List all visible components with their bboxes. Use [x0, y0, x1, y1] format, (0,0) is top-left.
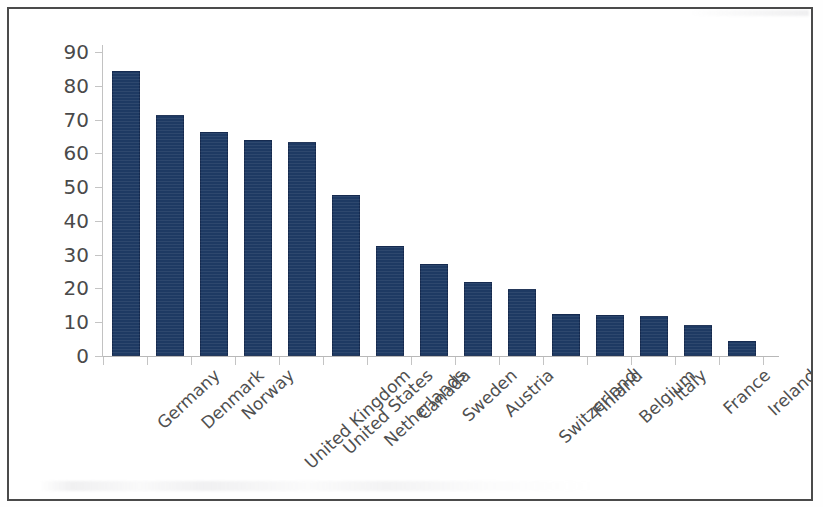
- chart-frame: 0102030405060708090 GermanyDenmarkNorway…: [7, 7, 813, 501]
- scanned-page: 0102030405060708090 GermanyDenmarkNorway…: [0, 0, 823, 507]
- x-axis-category-labels: GermanyDenmarkNorwayUnited KingdomUnited…: [9, 9, 811, 499]
- plot-area: 0102030405060708090 GermanyDenmarkNorway…: [9, 9, 811, 499]
- x-axis-category-label: Ireland: [764, 365, 813, 420]
- x-axis-category-label: France: [719, 365, 774, 418]
